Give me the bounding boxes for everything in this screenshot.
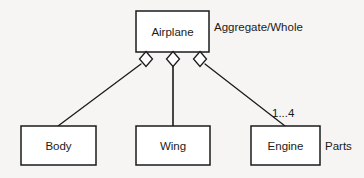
engine-class-box-label: Engine <box>268 140 304 152</box>
body-class-box[interactable]: Body <box>21 126 96 165</box>
wing-class-box[interactable]: Wing <box>136 126 210 165</box>
airplane-class-box-label: Airplane <box>151 26 193 38</box>
diagram-canvas: Airplane Body Wing Engine Aggregate/Whol… <box>0 0 364 178</box>
parts-label: Parts <box>325 140 352 152</box>
aggregate-whole-label: Aggregate/Whole <box>214 21 303 33</box>
body-class-box-label: Body <box>45 140 71 152</box>
uml-aggregation-diagram: Airplane Body Wing Engine Aggregate/Whol… <box>0 0 364 178</box>
engine-class-box[interactable]: Engine <box>251 126 320 165</box>
multiplicity-label-engine: 1...4 <box>272 107 295 119</box>
airplane-class-box[interactable]: Airplane <box>136 11 209 52</box>
wing-class-box-label: Wing <box>160 140 186 152</box>
